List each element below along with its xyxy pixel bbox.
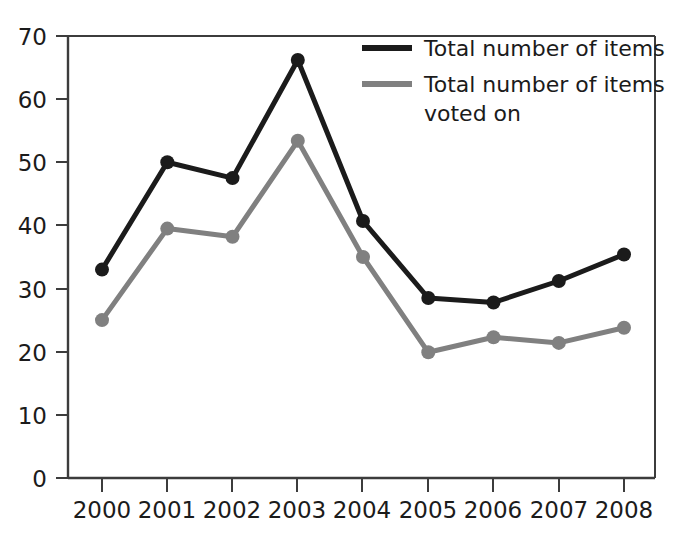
chart-legend: Total number of items Total number of it…: [362, 36, 665, 126]
legend-label-total-items-voted-on-line1: Total number of items: [423, 72, 665, 97]
data-point: [160, 222, 174, 236]
x-tick-label-2002: 2002: [203, 497, 262, 523]
y-axis-labels: 70 60 50 40 30 20 10 0: [18, 24, 47, 492]
y-tick-label-60: 60: [18, 87, 47, 113]
data-point: [552, 336, 566, 350]
data-point: [291, 53, 305, 67]
x-tick-label-2003: 2003: [268, 497, 327, 523]
data-point: [356, 250, 370, 264]
chart-container: 70 60 50 40 30 20 10 0 2000 2001 2002 2: [0, 0, 690, 540]
data-series-layer: [95, 53, 631, 359]
data-point: [95, 263, 109, 277]
data-point: [226, 230, 240, 244]
data-point: [95, 313, 109, 327]
y-axis-ticks: [56, 36, 68, 478]
series-total-items-voted-on: [95, 134, 631, 359]
y-tick-label-50: 50: [18, 150, 47, 176]
data-point: [421, 291, 435, 305]
data-point: [226, 171, 240, 185]
x-tick-label-2001: 2001: [138, 497, 197, 523]
x-tick-label-2004: 2004: [333, 497, 392, 523]
x-tick-label-2008: 2008: [595, 497, 654, 523]
y-tick-label-70: 70: [18, 24, 47, 50]
y-tick-label-40: 40: [18, 213, 47, 239]
y-tick-label-20: 20: [18, 340, 47, 366]
x-tick-label-2006: 2006: [464, 497, 523, 523]
series-line: [102, 141, 624, 352]
data-point: [421, 345, 435, 359]
legend-label-total-items-voted-on-line2: voted on: [424, 101, 521, 126]
x-tick-label-2007: 2007: [530, 497, 589, 523]
data-point: [356, 214, 370, 228]
data-point: [487, 330, 501, 344]
x-axis-labels: 2000 2001 2002 2003 2004 2005 2006 2007 …: [73, 497, 654, 523]
data-point: [160, 155, 174, 169]
y-tick-label-0: 0: [32, 466, 47, 492]
data-point: [487, 296, 501, 310]
data-point: [552, 274, 566, 288]
x-axis-ticks: [102, 478, 624, 492]
y-tick-label-30: 30: [18, 277, 47, 303]
data-point: [617, 248, 631, 262]
line-chart: 70 60 50 40 30 20 10 0 2000 2001 2002 2: [0, 0, 690, 540]
data-point: [617, 321, 631, 335]
x-tick-label-2000: 2000: [73, 497, 132, 523]
data-point: [291, 134, 305, 148]
legend-label-total-items: Total number of items: [423, 36, 665, 61]
x-tick-label-2005: 2005: [399, 497, 458, 523]
y-tick-label-10: 10: [18, 403, 47, 429]
